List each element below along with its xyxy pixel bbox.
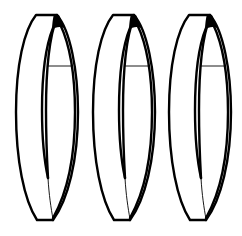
ring-3: [169, 14, 231, 220]
ring-1: [16, 14, 78, 220]
ring-2: [93, 14, 155, 220]
rings-diagram: [0, 0, 242, 236]
